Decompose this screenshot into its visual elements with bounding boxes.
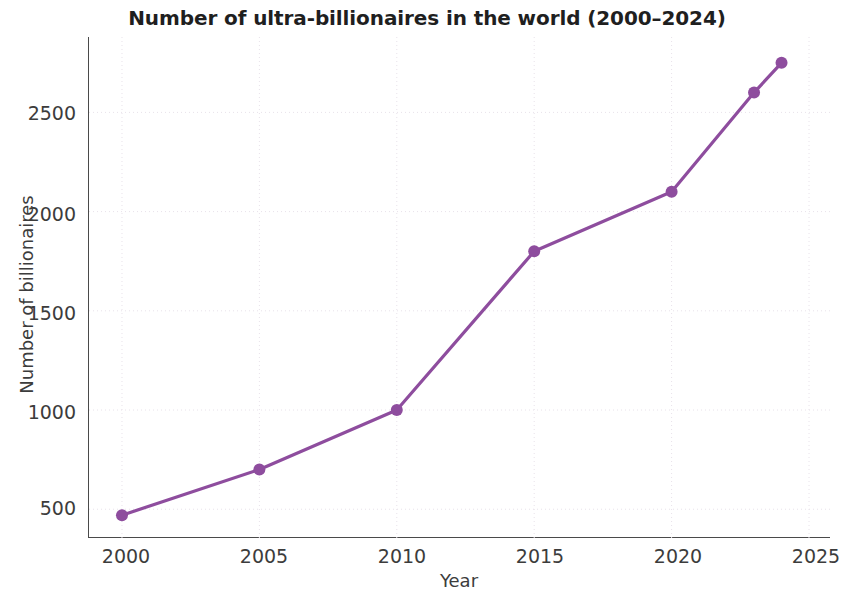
x-tick-label: 2005 bbox=[224, 547, 304, 566]
data-point bbox=[748, 87, 760, 99]
data-point bbox=[391, 404, 403, 416]
grid-lines bbox=[89, 37, 831, 538]
y-axis-label: Number of billionaires bbox=[16, 165, 37, 425]
axis-tick-marks bbox=[89, 112, 809, 538]
data-point bbox=[528, 245, 540, 257]
data-markers bbox=[116, 57, 788, 521]
plot-svg bbox=[89, 37, 831, 538]
x-tick-label: 2010 bbox=[362, 547, 442, 566]
data-point bbox=[116, 509, 128, 521]
data-point bbox=[666, 186, 678, 198]
data-point bbox=[253, 464, 265, 476]
data-point bbox=[776, 57, 788, 69]
data-line bbox=[122, 63, 782, 515]
plot-area bbox=[88, 37, 830, 538]
x-tick-label: 2015 bbox=[500, 547, 580, 566]
x-tick-label: 2000 bbox=[86, 547, 166, 566]
chart-figure: Number of ultra-billionaires in the worl… bbox=[0, 0, 854, 592]
x-tick-label: 2025 bbox=[776, 547, 854, 566]
x-axis-label: Year bbox=[88, 570, 830, 591]
x-tick-label: 2020 bbox=[638, 547, 718, 566]
